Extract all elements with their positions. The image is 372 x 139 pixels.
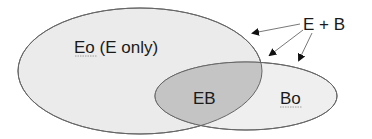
label-e-only: Eo (E only): [74, 38, 158, 57]
label-overlap: EB: [193, 89, 216, 108]
venn-diagram: Eo (E only) EB Bo E + B: [0, 0, 372, 139]
arrow-to-b-boundary: [299, 33, 312, 60]
label-b-only: Bo: [280, 89, 301, 108]
arrow-to-e-boundary: [253, 24, 300, 33]
annotation-e-plus-b: E + B: [303, 15, 345, 34]
arrow-to-intersection: [270, 30, 303, 55]
